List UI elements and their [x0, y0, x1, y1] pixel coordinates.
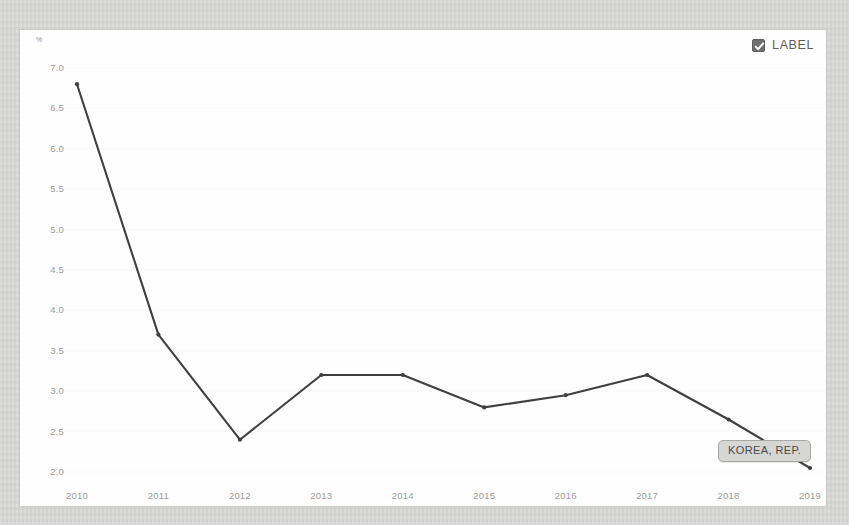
- x-tick-label: 2014: [392, 491, 414, 501]
- x-tick-label: 2013: [310, 491, 332, 501]
- x-tick-label: 2015: [473, 491, 495, 501]
- chart-panel: % LABEL 7.06.56.05.55.04.54.03.53.02.52.…: [20, 30, 826, 506]
- x-tick-label: 2010: [66, 491, 88, 501]
- chart-screenshot: % LABEL 7.06.56.05.55.04.54.03.53.02.52.…: [0, 0, 849, 525]
- x-tick-label: 2017: [636, 491, 658, 501]
- x-tick-label: 2016: [555, 491, 577, 501]
- x-axis-tick-labels: 2010201120122013201420152016201720182019: [20, 30, 826, 506]
- x-tick-label: 2018: [718, 491, 740, 501]
- x-tick-label: 2011: [148, 491, 169, 501]
- x-tick-label: 2019: [799, 491, 821, 501]
- series-annotation-korea-rep: KOREA, REP.: [718, 440, 811, 462]
- x-tick-label: 2012: [229, 491, 251, 501]
